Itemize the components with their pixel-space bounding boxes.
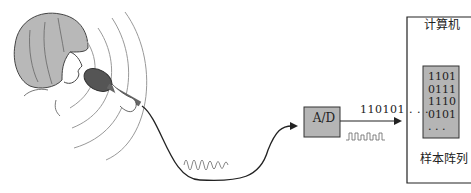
sample-array-rows: 1101 0111 1110 0101 . . . [428, 71, 456, 134]
digital-pulse-icon [346, 133, 385, 140]
person-speaking-icon [14, 13, 88, 116]
sample-row: . . . [428, 121, 456, 134]
diagram-canvas [0, 0, 471, 193]
computer-title: 计算机 [424, 15, 460, 32]
cable-line [142, 106, 292, 180]
ad-converter-label: A/D [305, 111, 343, 125]
sample-array-caption: 样本阵列 [420, 149, 468, 166]
microphone-icon [80, 64, 140, 112]
digital-bits-label: 110101 . . . [360, 103, 429, 116]
analog-waveform-icon [184, 160, 228, 170]
sample-row: 1110 [428, 96, 456, 109]
sample-row: 1101 [428, 71, 456, 84]
